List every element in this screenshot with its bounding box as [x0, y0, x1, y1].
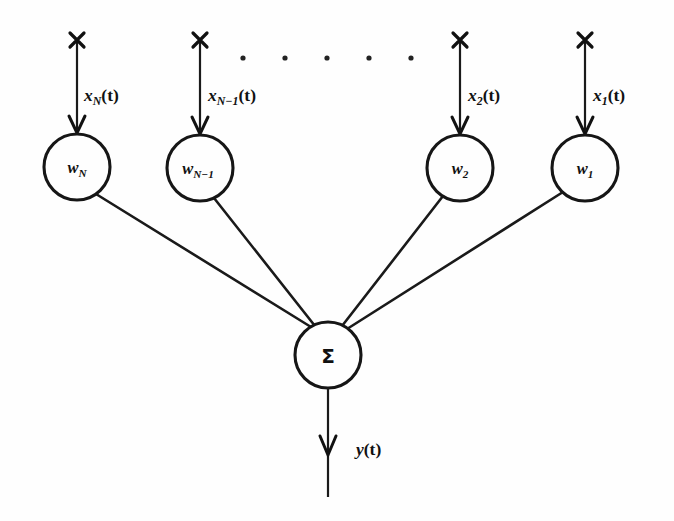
input-arrow-N-minus-1 [192, 33, 208, 134]
input-arrow-N [69, 33, 85, 133]
edge-weight-N-to-sum [96, 194, 311, 327]
input-label-N: xN(t) [83, 85, 119, 108]
input-arrow-2 [452, 33, 468, 134]
ellipsis-dot [408, 55, 413, 60]
weight-to-sum-edges-group [96, 192, 563, 329]
summation-node-label: Σ [321, 344, 335, 368]
output-arrow-group [320, 388, 336, 497]
linear-combiner-figure: xN(t) xN−1(t) x2(t) x1(t) wN wN−1 w2 w1 … [0, 0, 674, 521]
weight-nodes-group [44, 134, 618, 201]
input-label-1: x1(t) [592, 85, 625, 108]
weight-node-labels-group: wN wN−1 w2 w1 [67, 158, 593, 180]
input-arrows-group [69, 33, 593, 134]
ellipsis-dot [282, 55, 287, 60]
edge-weight-1-to-sum [347, 192, 563, 329]
edge-weight-2-to-sum [342, 196, 443, 326]
input-labels-group: xN(t) xN−1(t) x2(t) x1(t) [83, 85, 625, 108]
input-label-2: x2(t) [467, 85, 500, 108]
edge-weight-N-minus-1-to-sum [214, 198, 315, 326]
ellipsis-dot [240, 55, 245, 60]
diagram-canvas: xN(t) xN−1(t) x2(t) x1(t) wN wN−1 w2 w1 … [0, 0, 674, 521]
ellipsis-dot [366, 55, 371, 60]
input-label-N-minus-1: xN−1(t) [207, 85, 256, 108]
output-label: y(t) [354, 439, 381, 459]
ellipsis-dots-group [240, 55, 413, 60]
input-arrow-1 [577, 33, 593, 134]
ellipsis-dot [324, 55, 329, 60]
